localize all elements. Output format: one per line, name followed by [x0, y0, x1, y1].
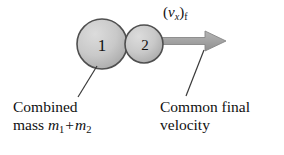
ball-2-label: 2 — [141, 37, 149, 53]
mass-symbol-1: m — [48, 116, 59, 133]
mass-word: mass — [13, 116, 44, 133]
inelastic-collision-diagram: 1 2 (vx)f Combined mass m1+m2 Common fin… — [0, 0, 284, 155]
common-velocity-caption: Common final velocity — [160, 98, 250, 134]
plus-operator: + — [64, 116, 75, 133]
velocity-subscript-x: x — [175, 11, 179, 22]
common-velocity-line-1: Common final — [160, 98, 250, 116]
combined-mass-line-1: Combined — [13, 98, 92, 116]
mass-subscript-2: 2 — [86, 124, 91, 135]
combined-mass-caption: Combined mass m1+m2 — [13, 98, 92, 136]
ball-1: 1 — [77, 19, 127, 69]
velocity-variable: v — [168, 4, 175, 20]
combined-mass-line-2: mass m1+m2 — [13, 116, 92, 136]
velocity-subscript-f: f — [184, 11, 187, 22]
common-velocity-leader-line — [186, 50, 204, 96]
ball-2: 2 — [125, 25, 163, 63]
velocity-label: (vx)f — [163, 4, 187, 21]
ball-1-label: 1 — [98, 36, 107, 55]
mass-symbol-2: m — [75, 116, 86, 133]
mass-subscript-1: 1 — [59, 124, 64, 135]
combined-mass-leader-line — [78, 66, 97, 97]
common-velocity-line-2: velocity — [160, 116, 250, 134]
